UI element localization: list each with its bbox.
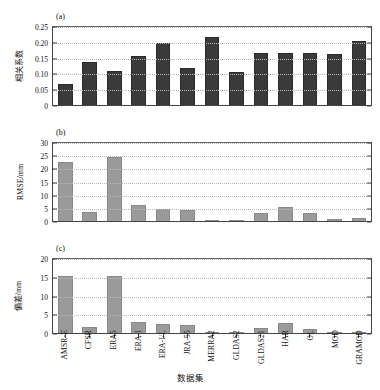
y-tick-mark <box>53 143 57 144</box>
y-tick-mark <box>53 42 57 43</box>
bar-har <box>278 53 293 106</box>
bar-slot <box>151 27 175 106</box>
x-label-text: HAR <box>281 330 290 346</box>
x-label-text: ERA-I <box>134 330 143 351</box>
gridline <box>53 315 371 316</box>
y-tick-mark-right <box>367 208 371 209</box>
y-tick-mark <box>53 195 57 196</box>
x-label-text: GLDAS2 <box>232 330 241 360</box>
gridline <box>53 169 371 170</box>
x-label-text: OL <box>306 330 315 340</box>
bar-era5 <box>107 71 122 106</box>
y-tick-label: 0.20 <box>35 38 53 47</box>
panel-c-ylabel: 偏差/mm <box>12 281 23 312</box>
x-label-text: AMSR-E <box>60 330 69 360</box>
y-tick-label: 5 <box>44 311 53 320</box>
y-tick-label: 0.25 <box>35 23 53 32</box>
y-tick-label: 15 <box>41 178 54 187</box>
panel-b-axes: 051015202530 <box>52 142 372 222</box>
bar-slot <box>347 27 371 106</box>
x-label-text: MERRA2 <box>207 330 216 362</box>
x-axis-category-labels: AMSR-ECFSRERA5ERA-IERA-I/LJRA-55MERRA2GL… <box>52 330 372 376</box>
y-tick-mark-right <box>367 27 371 28</box>
y-tick-mark <box>53 74 57 75</box>
y-tick-label: 20 <box>41 255 54 264</box>
bar-slot <box>200 27 224 106</box>
gridline <box>53 156 371 157</box>
gridline <box>53 143 371 144</box>
y-tick-mark <box>53 259 57 260</box>
y-tick-mark-right <box>367 169 371 170</box>
panel-a-bars <box>53 27 371 106</box>
panel-b: (b) RMSE/mm 051015202530 <box>0 128 380 236</box>
x-label-era5: ERA5 <box>101 330 126 376</box>
panel-b-plot: 051015202530 <box>52 128 372 236</box>
x-label-text: JRA-55 <box>183 330 192 355</box>
x-label-amsr-e: AMSR-E <box>52 330 77 376</box>
x-label-era-i-l: ERA-I/L <box>150 330 175 376</box>
panel-c-axes: 05101520 <box>52 258 372 334</box>
x-axis-title: 数据集 <box>0 371 380 383</box>
panel-a-plot: 00.050.100.150.200.25 <box>52 12 372 120</box>
bar-amsr-e <box>58 162 73 222</box>
x-label-gldas21: GLDAS21 <box>249 330 274 376</box>
gridline <box>53 196 371 197</box>
bar-slot <box>175 27 199 106</box>
y-tick-mark-right <box>367 182 371 183</box>
y-tick-mark <box>53 208 57 209</box>
bar-era5 <box>107 157 122 222</box>
y-tick-mark <box>53 315 57 316</box>
x-label-gramod: GRAMOD <box>347 330 372 376</box>
bar-era5 <box>107 276 122 334</box>
bar-slot <box>273 27 297 106</box>
x-label-merra2: MERRA2 <box>200 330 225 376</box>
gridline <box>53 59 371 60</box>
y-tick-label: 25 <box>41 152 54 161</box>
y-tick-mark-right <box>367 90 371 91</box>
gridline <box>53 27 371 28</box>
y-tick-mark <box>53 296 57 297</box>
gridline <box>53 209 371 210</box>
bar-era-i-l <box>156 209 171 222</box>
bar-slot <box>126 27 150 106</box>
y-tick-label: 20 <box>41 165 54 174</box>
bar-slot <box>77 27 101 106</box>
y-tick-mark <box>53 27 57 28</box>
y-tick-label: 0.05 <box>35 86 53 95</box>
x-label-text: ERA-I/L <box>158 330 167 358</box>
panel-a-ylabel: 相关系数 <box>13 50 24 82</box>
bar-amsr-e <box>58 276 73 335</box>
bar-slot <box>322 27 346 106</box>
y-tick-label: 15 <box>41 273 54 282</box>
bar-amsr-e <box>58 84 73 106</box>
x-label-text: CFSR <box>84 330 93 349</box>
gridline <box>53 297 371 298</box>
y-tick-label: 0 <box>44 218 53 227</box>
y-tick-label: 10 <box>41 191 54 200</box>
bar-gldas2 <box>229 72 244 106</box>
y-tick-mark-right <box>367 259 371 260</box>
panel-a: (a) 相关系数 00.050.100.150.200.25 <box>0 12 380 120</box>
bar-slot <box>224 27 248 106</box>
y-tick-mark-right <box>367 156 371 157</box>
figure-root: (a) 相关系数 00.050.100.150.200.25 (b) RMSE/… <box>0 0 380 390</box>
y-tick-mark-right <box>367 143 371 144</box>
y-tick-mark-right <box>367 58 371 59</box>
x-label-text: MOD <box>331 330 340 348</box>
bar-slot <box>53 27 77 106</box>
y-tick-label: 0.10 <box>35 70 53 79</box>
y-tick-mark-right <box>367 315 371 316</box>
bar-mod <box>327 54 342 106</box>
bar-slot <box>249 27 273 106</box>
y-tick-mark-right <box>367 74 371 75</box>
y-tick-mark <box>53 156 57 157</box>
x-label-gldas2: GLDAS2 <box>224 330 249 376</box>
y-tick-mark-right <box>367 42 371 43</box>
y-tick-mark-right <box>367 195 371 196</box>
y-tick-label: 10 <box>41 292 54 301</box>
bar-era-i <box>131 205 146 222</box>
gridline <box>53 278 371 279</box>
y-tick-mark-right <box>367 296 371 297</box>
gridline <box>53 259 371 260</box>
x-label-era-i: ERA-I <box>126 330 151 376</box>
